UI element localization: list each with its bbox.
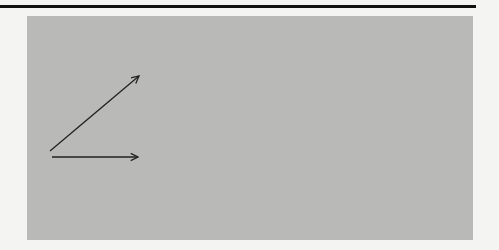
edge-C xyxy=(48,165,66,170)
flow-diagram xyxy=(0,0,499,250)
edge-B xyxy=(50,76,139,151)
